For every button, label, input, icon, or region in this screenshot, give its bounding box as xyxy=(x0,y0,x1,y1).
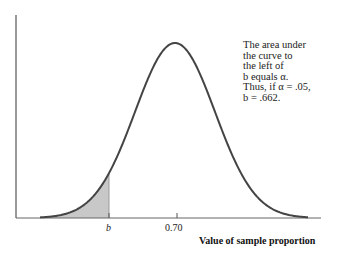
annotation-line: The area under xyxy=(243,40,311,51)
annotation-text: The area under the curve to the left of … xyxy=(243,40,311,104)
tick-label-mean: 0.70 xyxy=(165,222,183,233)
tick-label-b: b xyxy=(106,222,111,233)
x-axis-label: Value of sample proportion xyxy=(199,235,315,246)
annotation-line: b = .662. xyxy=(243,93,311,104)
